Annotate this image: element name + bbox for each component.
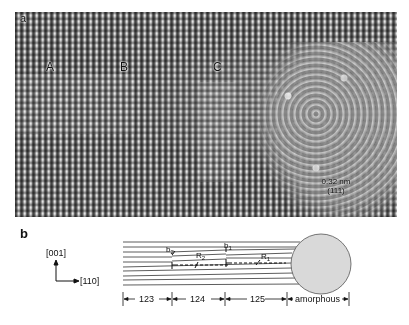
axis-arrows bbox=[54, 260, 79, 283]
segment-label-amorphous: amorphous bbox=[295, 294, 340, 304]
label-b1: b1 bbox=[224, 241, 232, 251]
region-label-b: B bbox=[120, 60, 128, 74]
label-r2: R2 bbox=[196, 251, 206, 261]
label-b2: b2 bbox=[166, 245, 174, 255]
panel-a-label: a bbox=[20, 12, 26, 24]
region-label-c: C bbox=[213, 60, 222, 74]
region-label-a: A bbox=[46, 60, 54, 74]
amorphous-particle bbox=[291, 234, 351, 294]
segment-label-123: 123 bbox=[139, 294, 154, 304]
scale-plane: (111) bbox=[316, 186, 356, 195]
dislocation-schematic: b2 R2 b1 R1 bbox=[0, 220, 409, 325]
scale-spacing: 0.32 nm bbox=[316, 177, 356, 186]
scale-annotation: 0.32 nm (111) bbox=[316, 177, 356, 195]
lattice-planes bbox=[123, 242, 300, 285]
segment-label-124: 124 bbox=[190, 294, 205, 304]
segment-label-125: 125 bbox=[250, 294, 265, 304]
